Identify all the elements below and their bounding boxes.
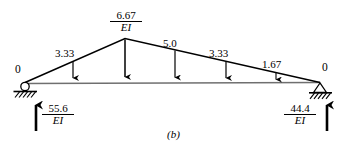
peak-denominator: EI — [110, 22, 142, 33]
right-end-value: 0 — [322, 61, 328, 73]
ordinate-label-3: 5.0 — [163, 38, 177, 50]
right-reaction-denominator: EI — [284, 115, 316, 126]
roller-support-left — [14, 82, 38, 97]
left-reaction-label: 55.6 EI — [42, 103, 74, 126]
beam-axis — [25, 83, 320, 84]
ordinate-label-2-peak: 6.67 EI — [110, 10, 142, 33]
figure-caption: (b) — [167, 128, 180, 140]
moment-diagram-figure: 0 0 3.33 6.67 EI 5.0 3.33 1.67 55.6 EI 4… — [0, 0, 351, 147]
ordinate-label-1: 3.33 — [55, 48, 74, 60]
ordinate-label-4: 3.33 — [209, 48, 228, 60]
ordinate-label-5: 1.67 — [262, 59, 281, 71]
left-reaction-denominator: EI — [42, 115, 74, 126]
right-reaction-label: 44.4 EI — [284, 103, 316, 126]
left-end-value: 0 — [15, 63, 21, 75]
pin-support-right — [309, 83, 332, 99]
